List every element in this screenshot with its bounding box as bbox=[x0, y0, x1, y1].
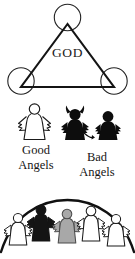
bad-angel-tail-icon bbox=[84, 133, 93, 138]
trinity-vertex-circle-right bbox=[101, 68, 127, 94]
bad-angel-2-right-arm bbox=[115, 124, 121, 134]
bad-angel-left-arm bbox=[61, 122, 68, 133]
bad-angel-tail-tip-icon bbox=[92, 135, 96, 140]
human-3-body bbox=[58, 218, 76, 243]
bad-angel-right-arm bbox=[83, 122, 90, 133]
good-angels-caption: Good Angels bbox=[4, 143, 68, 173]
bad-angel-2-head bbox=[103, 111, 114, 122]
human-2-head bbox=[36, 205, 46, 215]
human-2-body bbox=[32, 214, 50, 241]
trinity-vertex-circle-left bbox=[8, 68, 34, 94]
bad-angel-2-body bbox=[99, 121, 118, 140]
trinity-vertex-circle-top bbox=[54, 4, 80, 30]
diagram-canvas bbox=[0, 0, 135, 259]
bad-angel-figure-plain bbox=[95, 111, 121, 140]
bad-angels-caption: Bad Angels bbox=[64, 150, 130, 180]
human-1-body bbox=[9, 222, 27, 245]
human-2-left-arm bbox=[27, 217, 34, 228]
good-angel-body bbox=[24, 113, 45, 140]
human-4-body bbox=[82, 215, 100, 241]
god-label: GOD bbox=[0, 46, 135, 60]
bad-angel-2-left-arm bbox=[95, 124, 101, 134]
humans-group bbox=[1, 200, 134, 252]
human-5-body bbox=[107, 223, 125, 246]
human-5-head bbox=[111, 214, 120, 223]
human-4-head bbox=[86, 206, 96, 216]
good-angel-head bbox=[29, 104, 39, 114]
good-angels-caption-line1: Good bbox=[4, 143, 68, 158]
human-1-head bbox=[13, 213, 22, 222]
human-4-right-arm bbox=[98, 218, 105, 229]
bad-angel-figure-horned bbox=[61, 106, 95, 141]
bad-angels-caption-line1: Bad bbox=[64, 150, 130, 165]
bad-angel-body bbox=[65, 119, 85, 140]
human-figure-5 bbox=[102, 214, 130, 246]
bad-angels-caption-line2: Angels bbox=[64, 165, 130, 180]
theology-diagram: GOD Good Angels Bad Angels bbox=[0, 0, 135, 259]
human-5-right-arm bbox=[123, 226, 130, 237]
good-angel-figure bbox=[19, 104, 51, 140]
human-1-left-arm bbox=[4, 225, 11, 236]
human-3-head bbox=[62, 209, 72, 219]
human-figure-4 bbox=[77, 206, 105, 241]
bad-angel-head bbox=[69, 109, 80, 120]
human-figure-1 bbox=[4, 213, 32, 245]
good-angels-caption-line2: Angels bbox=[4, 158, 68, 173]
